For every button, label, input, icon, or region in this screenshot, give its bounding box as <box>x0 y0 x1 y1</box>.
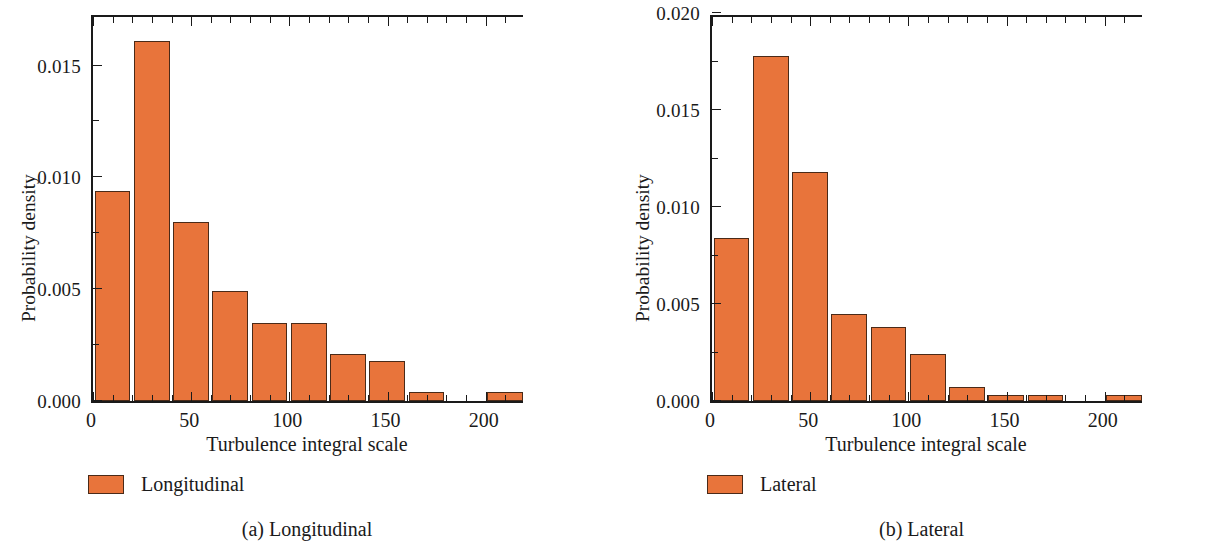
x-tick-label: 100 <box>257 409 317 432</box>
x-tick-minor-top <box>869 17 870 23</box>
y-tick-minor <box>93 120 99 121</box>
y-tick-major <box>712 12 721 13</box>
bars-layer-a <box>93 17 523 401</box>
x-tick-label: 200 <box>1073 409 1133 432</box>
x-tick-minor <box>1085 395 1086 401</box>
x-tick-minor <box>329 395 330 401</box>
x-tick-minor-top <box>446 17 447 23</box>
x-tick-minor <box>427 395 428 401</box>
y-tick-major <box>93 400 102 401</box>
x-tick-minor-top <box>1124 17 1125 23</box>
x-tick-major <box>388 392 389 401</box>
x-tick-minor <box>446 395 447 401</box>
bar <box>714 238 750 401</box>
x-tick-minor-top <box>751 17 752 23</box>
x-tick-minor-top <box>427 17 428 23</box>
bar <box>792 172 828 401</box>
x-tick-minor <box>967 395 968 401</box>
x-tick-major-top <box>486 17 487 26</box>
x-tick-minor <box>172 395 173 401</box>
x-tick-minor-top <box>505 17 506 23</box>
x-tick-minor-top <box>889 17 890 23</box>
x-tick-minor-top <box>1046 17 1047 23</box>
x-tick-minor <box>1124 395 1125 401</box>
x-tick-minor-top <box>928 17 929 23</box>
bar <box>134 41 170 401</box>
x-tick-label: 0 <box>61 409 121 432</box>
x-tick-minor-top <box>270 17 271 23</box>
x-tick-minor-top <box>250 17 251 23</box>
x-tick-minor <box>1026 395 1027 401</box>
y-tick-minor <box>712 352 718 353</box>
bar <box>95 191 131 401</box>
x-tick-minor-top <box>368 17 369 23</box>
x-tick-label: 50 <box>159 409 219 432</box>
x-tick-minor-top <box>329 17 330 23</box>
y-tick-major <box>712 303 721 304</box>
figure-container: Probability density 0.0000.0050.0100.015… <box>0 0 1229 552</box>
y-tick-major <box>712 400 721 401</box>
y-tick-minor <box>93 232 99 233</box>
bar <box>173 222 209 401</box>
x-tick-minor <box>1046 395 1047 401</box>
y-tick-minor <box>93 344 99 345</box>
subfigure-caption-a: (a) Longitudinal <box>0 518 614 541</box>
subfigure-caption-b: (b) Lateral <box>614 518 1229 541</box>
x-tick-major-top <box>908 17 909 26</box>
x-tick-minor <box>869 395 870 401</box>
legend-label-b: Lateral <box>760 473 817 496</box>
x-tick-minor <box>830 395 831 401</box>
x-tick-minor <box>771 395 772 401</box>
x-tick-major-top <box>712 17 713 26</box>
x-tick-minor-top <box>830 17 831 23</box>
y-tick-minor <box>712 158 718 159</box>
x-tick-minor-top <box>1065 17 1066 23</box>
x-tick-minor <box>505 395 506 401</box>
x-tick-minor <box>1065 395 1066 401</box>
x-tick-minor-top <box>348 17 349 23</box>
x-tick-minor <box>113 395 114 401</box>
bar <box>212 291 248 401</box>
x-tick-label: 50 <box>778 409 838 432</box>
y-tick-label: 0.010 <box>656 197 700 219</box>
x-tick-minor <box>152 395 153 401</box>
x-tick-minor-top <box>987 17 988 23</box>
x-tick-minor <box>889 395 890 401</box>
x-axis-title-b: Turbulence integral scale <box>710 433 1142 456</box>
y-tick-major <box>93 65 102 66</box>
y-tick-label: 0.020 <box>656 3 700 25</box>
x-tick-minor <box>987 395 988 401</box>
x-tick-minor-top <box>230 17 231 23</box>
x-tick-minor-top <box>466 17 467 23</box>
x-tick-major-top <box>289 17 290 26</box>
x-tick-minor <box>849 395 850 401</box>
x-tick-minor <box>250 395 251 401</box>
x-tick-minor <box>928 395 929 401</box>
y-axis-title-b: Probability density <box>632 174 654 322</box>
x-tick-label: 100 <box>876 409 936 432</box>
x-tick-minor <box>791 395 792 401</box>
x-tick-major <box>1105 392 1106 401</box>
x-tick-minor-top <box>1026 17 1027 23</box>
x-tick-minor-top <box>732 17 733 23</box>
x-tick-label: 150 <box>356 409 416 432</box>
y-tick-minor <box>712 61 718 62</box>
panel-lateral: Probability density 0.0000.0050.0100.015… <box>614 0 1229 552</box>
x-tick-major <box>1007 392 1008 401</box>
x-tick-minor <box>732 395 733 401</box>
x-tick-minor-top <box>771 17 772 23</box>
x-tick-minor-top <box>132 17 133 23</box>
x-tick-minor <box>407 395 408 401</box>
bar <box>871 327 907 401</box>
x-tick-label: 200 <box>454 409 514 432</box>
x-tick-minor <box>230 395 231 401</box>
x-tick-major-top <box>388 17 389 26</box>
x-tick-minor <box>368 395 369 401</box>
x-tick-minor-top <box>172 17 173 23</box>
x-tick-major-top <box>93 17 94 26</box>
x-tick-major <box>712 392 713 401</box>
x-tick-minor <box>132 395 133 401</box>
legend-swatch-icon <box>88 475 124 494</box>
bars-layer-b <box>712 17 1142 401</box>
x-tick-label: 0 <box>680 409 740 432</box>
